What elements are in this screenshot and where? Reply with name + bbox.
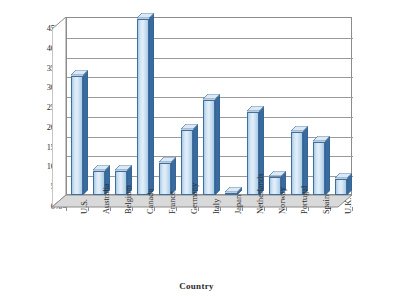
x-axis-tick-mark bbox=[198, 207, 199, 211]
bar-front-face bbox=[313, 142, 325, 195]
x-axis-tick-mark bbox=[308, 207, 309, 211]
bar-top-face bbox=[181, 124, 198, 130]
bar-top-face bbox=[335, 173, 352, 179]
bar-front-face bbox=[269, 177, 281, 195]
bar-top-face bbox=[203, 94, 220, 100]
x-axis-tick-mark bbox=[286, 207, 287, 211]
bar-top-face bbox=[291, 126, 308, 132]
bar-series bbox=[66, 17, 366, 207]
bar bbox=[335, 173, 347, 195]
bar-side-face bbox=[83, 71, 87, 195]
bar-chart-figure: Percent of venture capital funds 0%5%10%… bbox=[0, 0, 393, 307]
bar bbox=[115, 165, 127, 195]
bar bbox=[181, 124, 193, 195]
bar-side-face bbox=[259, 107, 263, 195]
bar bbox=[225, 187, 237, 195]
bar-front-face bbox=[137, 19, 149, 195]
bar-top-face bbox=[269, 171, 286, 177]
plot-area bbox=[66, 17, 366, 207]
bar-top-face bbox=[71, 70, 88, 76]
x-axis-title: Country bbox=[0, 281, 393, 291]
bar-top-face bbox=[313, 136, 330, 142]
bar-top-face bbox=[93, 165, 110, 171]
bar bbox=[291, 126, 303, 195]
bar bbox=[247, 106, 259, 195]
bar-front-face bbox=[115, 171, 127, 195]
x-axis-tick-mark bbox=[330, 207, 331, 211]
bar bbox=[203, 94, 215, 195]
x-axis-tick-mark bbox=[88, 207, 89, 211]
bar bbox=[313, 136, 325, 195]
x-axis-tick-mark bbox=[352, 207, 353, 211]
bar-top-face bbox=[225, 187, 242, 193]
bar-front-face bbox=[225, 193, 237, 195]
x-axis-tick-mark bbox=[242, 207, 243, 211]
bar-side-face bbox=[149, 14, 153, 195]
bar-front-face bbox=[247, 112, 259, 195]
bar-side-face bbox=[325, 137, 329, 195]
bar-front-face bbox=[159, 163, 171, 195]
x-axis-tick-mark bbox=[154, 207, 155, 211]
bar-top-face bbox=[247, 106, 264, 112]
bar bbox=[137, 13, 149, 195]
x-axis-tick-mark bbox=[264, 207, 265, 211]
bar-front-face bbox=[93, 171, 105, 195]
plot-left-wall bbox=[52, 17, 67, 207]
bar-front-face bbox=[203, 100, 215, 195]
bar bbox=[269, 171, 281, 195]
bar-side-face bbox=[303, 127, 307, 195]
bar-top-face bbox=[159, 157, 176, 163]
bar-top-face bbox=[115, 165, 132, 171]
bar bbox=[159, 157, 171, 195]
bar-side-face bbox=[215, 95, 219, 195]
x-axis-tick-mark bbox=[110, 207, 111, 211]
bar-front-face bbox=[181, 130, 193, 195]
bar-side-face bbox=[193, 125, 197, 195]
bar-top-face bbox=[137, 13, 154, 19]
x-axis-tick-mark bbox=[132, 207, 133, 211]
bar-front-face bbox=[71, 76, 83, 195]
x-axis-tick-mark bbox=[220, 207, 221, 211]
x-axis-tick-mark bbox=[176, 207, 177, 211]
x-axis-tick-mark bbox=[66, 207, 67, 211]
x-axis-tick-marks bbox=[66, 207, 366, 212]
bar-front-face bbox=[291, 132, 303, 195]
bar bbox=[71, 70, 83, 195]
bar-front-face bbox=[335, 179, 347, 195]
bar-side-face bbox=[171, 158, 175, 195]
bar bbox=[93, 165, 105, 195]
